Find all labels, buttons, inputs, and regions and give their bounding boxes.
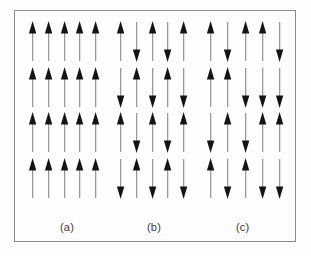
spin-arrow-up bbox=[90, 21, 101, 62]
spin-arrow-up bbox=[27, 21, 38, 62]
spin-arrow-down bbox=[240, 67, 251, 108]
spin-arrow-up bbox=[222, 112, 233, 153]
spin-arrow-up bbox=[147, 21, 158, 62]
spin-arrow-down bbox=[205, 112, 216, 153]
spin-arrow-up bbox=[162, 67, 173, 108]
spin-arrow-down bbox=[240, 112, 251, 153]
spin-arrow-up bbox=[59, 67, 70, 108]
spin-arrow-up bbox=[27, 158, 38, 199]
panel-a bbox=[27, 21, 101, 199]
spin-arrow-up bbox=[27, 67, 38, 108]
spin-arrow-up bbox=[257, 21, 268, 62]
spin-arrow-down bbox=[162, 21, 173, 62]
spin-arrow-up bbox=[59, 158, 70, 199]
spin-arrow-down bbox=[147, 67, 158, 108]
spin-arrow-up bbox=[59, 112, 70, 153]
spin-arrow-down bbox=[131, 112, 142, 153]
spin-arrow-down bbox=[222, 21, 233, 62]
spin-arrow-down bbox=[178, 67, 189, 108]
spin-lattice-b bbox=[115, 21, 189, 199]
spin-arrow-down bbox=[162, 112, 173, 153]
spin-arrow-up bbox=[74, 112, 85, 153]
spin-lattice-a bbox=[27, 21, 101, 199]
spin-arrow-down bbox=[178, 158, 189, 199]
spin-arrow-up bbox=[43, 158, 54, 199]
spin-arrow-up bbox=[59, 21, 70, 62]
spin-arrow-up bbox=[162, 158, 173, 199]
spin-arrow-up bbox=[205, 21, 216, 62]
spin-arrow-up bbox=[178, 21, 189, 62]
spin-arrow-down bbox=[257, 158, 268, 199]
panel-c bbox=[205, 21, 285, 199]
spin-arrow-up bbox=[205, 67, 216, 108]
spin-arrow-up bbox=[205, 158, 216, 199]
panel-caption-a: (a) bbox=[60, 221, 74, 233]
spin-arrow-up bbox=[115, 112, 126, 153]
spin-arrow-up bbox=[147, 112, 158, 153]
spin-arrow-up bbox=[90, 158, 101, 199]
spin-arrow-up bbox=[90, 67, 101, 108]
spin-arrow-up bbox=[74, 67, 85, 108]
spin-arrow-up bbox=[43, 112, 54, 153]
spin-arrow-down bbox=[274, 21, 285, 62]
spin-arrow-up bbox=[274, 112, 285, 153]
spin-arrow-down bbox=[222, 158, 233, 199]
spin-arrow-up bbox=[43, 67, 54, 108]
spin-arrow-up bbox=[43, 21, 54, 62]
spin-arrow-down bbox=[274, 67, 285, 108]
spin-arrow-down bbox=[115, 67, 126, 108]
spin-arrow-up bbox=[222, 67, 233, 108]
spin-arrow-down bbox=[115, 158, 126, 199]
spin-arrow-up bbox=[90, 112, 101, 153]
panel-b bbox=[115, 21, 189, 199]
spin-arrow-up bbox=[115, 21, 126, 62]
spin-arrow-up bbox=[27, 112, 38, 153]
spin-arrow-up bbox=[240, 158, 251, 199]
spin-arrow-down bbox=[147, 158, 158, 199]
spin-arrow-up bbox=[131, 67, 142, 108]
spin-arrow-up bbox=[131, 158, 142, 199]
spin-arrow-up bbox=[240, 21, 251, 62]
spin-lattice-c bbox=[205, 21, 285, 199]
spin-arrow-up bbox=[178, 112, 189, 153]
spin-arrow-up bbox=[74, 158, 85, 199]
spin-arrow-up bbox=[74, 21, 85, 62]
spin-arrow-down bbox=[257, 67, 268, 108]
figure-frame: (a) (b) (c) bbox=[14, 10, 296, 242]
spin-arrow-up bbox=[257, 112, 268, 153]
panel-caption-c: (c) bbox=[236, 221, 249, 233]
spin-arrow-down bbox=[131, 21, 142, 62]
spin-ordering-figure: (a) (b) (c) bbox=[0, 0, 311, 256]
spin-arrow-down bbox=[274, 158, 285, 199]
panel-caption-b: (b) bbox=[147, 221, 161, 233]
